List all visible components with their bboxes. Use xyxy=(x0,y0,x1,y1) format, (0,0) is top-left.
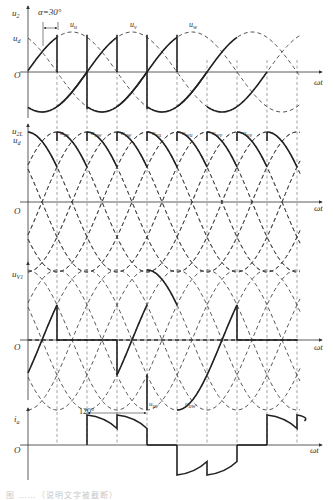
vt1-segment xyxy=(28,305,57,373)
panel1-ud-label: ud xyxy=(13,33,22,44)
panel1-origin-label: O xyxy=(14,70,21,80)
panel4-origin-label: O xyxy=(14,445,21,455)
curve-label-uw: uw xyxy=(189,20,197,30)
panel2-x-label: ωt xyxy=(314,203,323,213)
curve-label-uw-l1: uuw xyxy=(91,129,102,138)
ud-output-segment xyxy=(147,132,177,167)
panel3-x-label: ωt xyxy=(314,342,323,352)
curve-label-wv: uwv xyxy=(212,129,223,138)
panel4-y-label: ia xyxy=(14,414,20,425)
figure-caption: 图 ……（说明文字被截断） xyxy=(6,489,118,500)
curve-label-uw-v1: uuw xyxy=(185,400,196,409)
alpha-label: α=30° xyxy=(38,7,62,17)
curve-label-uu: uu xyxy=(70,20,77,30)
ud-output-segment xyxy=(267,132,297,167)
panel4-x-label: ωt xyxy=(310,445,319,455)
interval-120-label: 120° xyxy=(79,407,94,416)
panel1-x-label: ωt xyxy=(314,77,323,87)
ud-output-segment xyxy=(87,132,117,167)
panel3-origin-label: O xyxy=(14,342,21,352)
current-pulse-negative xyxy=(177,445,237,475)
panel2-origin-label: O xyxy=(14,206,21,216)
curve-label-wu: uwu xyxy=(182,129,193,138)
curve-label-uv: uv xyxy=(130,20,137,30)
ud-output-segment xyxy=(117,132,147,167)
current-pulse-positive-2 xyxy=(267,415,306,445)
curve-label-uv-l1: uuv xyxy=(60,129,70,138)
curve-label-uv-v1: uuv xyxy=(149,400,159,409)
panel1-y-label: u2 xyxy=(12,8,20,19)
output-negative-envelope xyxy=(28,72,87,112)
ud-output-segment xyxy=(57,132,87,167)
panel3-y-label: uV1 xyxy=(12,269,23,280)
curve-label-uv-l2: uuv xyxy=(243,129,253,138)
ud-output-start xyxy=(28,132,57,167)
curve-label-vu: uvu xyxy=(152,129,161,138)
curve-label-vw: uvw xyxy=(121,129,131,138)
vt1-uw-block xyxy=(147,270,177,305)
